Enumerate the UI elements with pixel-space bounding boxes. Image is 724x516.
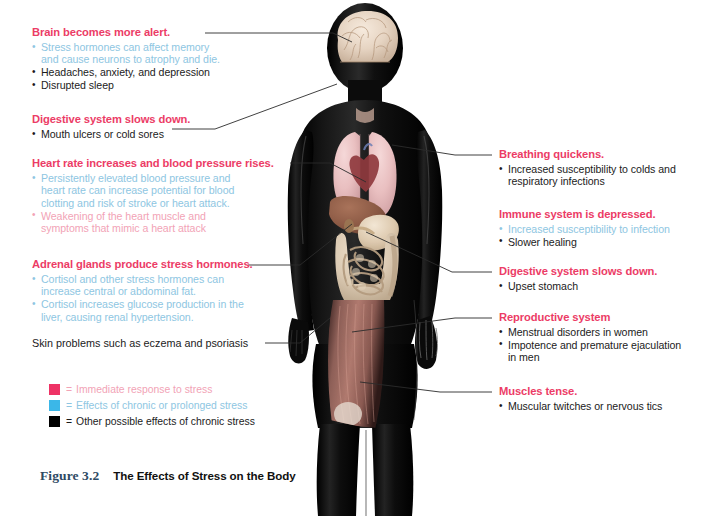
annotation-heading: Breathing quickens.	[499, 148, 676, 161]
bullet-item: Muscular twitches or nervous tics	[499, 400, 662, 412]
legend-swatch-immediate	[49, 384, 60, 395]
annotation-bullets: Stress hormones can affect memory and ca…	[32, 41, 220, 92]
annotation-heading: Digestive system slows down.	[32, 113, 190, 126]
annotation-heading: Adrenal glands produce stress hormones.	[32, 258, 253, 271]
annotation-bullets: Increased susceptibility to infection Sl…	[499, 223, 670, 248]
legend-label: Effects of chronic or prolonged stress	[76, 400, 247, 412]
bullet-item: Cortisol increases glucose production in…	[32, 298, 253, 323]
annotation-heading: Reproductive system	[499, 311, 681, 324]
annotation-bullets: Upset stomach	[499, 280, 657, 292]
figure-caption: Figure 3.2 The Effects of Stress on the …	[40, 468, 295, 484]
bullet-item: Slower healing	[499, 236, 670, 248]
annotation-heart: Heart rate increases and blood pressure …	[32, 157, 274, 235]
bullet-item: Persistently elevated blood pressure and…	[32, 172, 274, 209]
annotation-heading: Heart rate increases and blood pressure …	[32, 157, 274, 170]
annotation-heading: Brain becomes more alert.	[32, 26, 220, 39]
bullet-item: Disrupted sleep	[32, 79, 220, 91]
annotation-skin-problems: Skin problems such as eczema and psorias…	[32, 337, 248, 350]
bullet-item: Upset stomach	[499, 280, 657, 292]
annotation-breathing: Breathing quickens. Increased susceptibi…	[499, 148, 676, 188]
bullet-item: Mouth ulcers or cold sores	[32, 128, 190, 140]
annotation-heading: Immune system is depressed.	[499, 208, 670, 221]
thigh-muscles	[328, 300, 384, 428]
bullet-item: Menstrual disorders in women	[499, 326, 681, 338]
annotation-digestive-left: Digestive system slows down. Mouth ulcer…	[32, 113, 190, 140]
legend-swatch-chronic	[49, 400, 60, 411]
figure-stage: Brain becomes more alert. Stress hormone…	[0, 0, 724, 516]
legend-label: Immediate response to stress	[76, 384, 212, 396]
legend-row: = Immediate response to stress	[49, 383, 255, 397]
annotation-brain: Brain becomes more alert. Stress hormone…	[32, 26, 220, 92]
legend-equals: =	[66, 400, 72, 412]
annotation-reproductive: Reproductive system Menstrual disorders …	[499, 311, 681, 364]
annotation-bullets: Persistently elevated blood pressure and…	[32, 172, 274, 235]
legend-row: = Other possible effects of chronic stre…	[49, 415, 255, 429]
bullet-item: Stress hormones can affect memory and ca…	[32, 41, 220, 66]
annotation-bullets: Menstrual disorders in women Impotence a…	[499, 326, 681, 364]
annotation-heading: Digestive system slows down.	[499, 265, 657, 278]
bullet-item: Headaches, anxiety, and depression	[32, 66, 220, 78]
figure-title: The Effects of Stress on the Body	[113, 469, 295, 482]
annotation-bullets: Cortisol and other stress hormones can i…	[32, 273, 253, 323]
legend-equals: =	[66, 416, 72, 428]
legend-row: = Effects of chronic or prolonged stress	[49, 399, 255, 413]
bullet-item: Increased susceptibility to colds and re…	[499, 163, 676, 188]
brain-organ	[338, 11, 398, 62]
annotation-bullets: Muscular twitches or nervous tics	[499, 400, 662, 412]
adrenal-gland	[344, 219, 354, 233]
annotation-adrenal: Adrenal glands produce stress hormones. …	[32, 258, 253, 323]
bullet-item: Cortisol and other stress hormones can i…	[32, 273, 253, 298]
bullet-item: Impotence and premature ejaculation in m…	[499, 339, 681, 364]
annotation-muscles: Muscles tense. Muscular twitches or nerv…	[499, 385, 662, 412]
legend-label: Other possible effects of chronic stress	[76, 416, 255, 428]
legend: = Immediate response to stress = Effects…	[49, 383, 255, 431]
annotation-immune: Immune system is depressed. Increased su…	[499, 208, 670, 248]
figure-number: Figure 3.2	[40, 468, 99, 484]
annotation-bullets: Mouth ulcers or cold sores	[32, 128, 190, 140]
bullet-item: Weakening of the heart muscle and sympto…	[32, 210, 274, 235]
bullet-item: Increased susceptibility to infection	[499, 223, 670, 235]
annotation-digestive-right: Digestive system slows down. Upset stoma…	[499, 265, 657, 292]
annotation-heading: Muscles tense.	[499, 385, 662, 398]
legend-swatch-other	[49, 416, 60, 427]
legend-equals: =	[66, 384, 72, 396]
annotation-bullets: Increased susceptibility to colds and re…	[499, 163, 676, 188]
